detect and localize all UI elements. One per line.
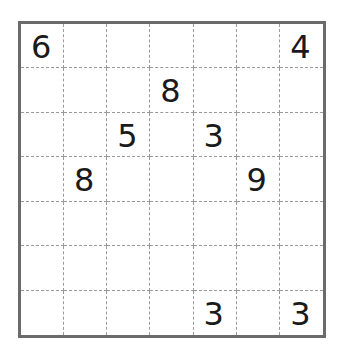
cell-value: 3 [290, 298, 310, 330]
grid-cell-r2-c1[interactable] [64, 113, 107, 157]
grid-cell-r6-c6[interactable]: 3 [280, 291, 323, 335]
grid-cell-r1-c6[interactable] [280, 68, 323, 112]
grid-cell-r3-c2[interactable] [107, 157, 150, 201]
grid-cell-r1-c5[interactable] [237, 68, 280, 112]
grid-cell-r5-c6[interactable] [280, 246, 323, 290]
grid-cell-r3-c1[interactable]: 8 [64, 157, 107, 201]
cell-value: 5 [117, 120, 137, 152]
grid-cell-r0-c3[interactable] [150, 24, 193, 68]
grid-cell-r3-c3[interactable] [150, 157, 193, 201]
grid-cell-r2-c0[interactable] [21, 113, 64, 157]
grid-cell-r6-c3[interactable] [150, 291, 193, 335]
grid-cell-r5-c3[interactable] [150, 246, 193, 290]
grid-cell-r2-c2[interactable]: 5 [107, 113, 150, 157]
grid-cell-r6-c5[interactable] [237, 291, 280, 335]
grid-cell-r0-c4[interactable] [194, 24, 237, 68]
cell-value: 6 [31, 31, 51, 63]
grid-cell-r2-c6[interactable] [280, 113, 323, 157]
grid-cell-r5-c4[interactable] [194, 246, 237, 290]
grid-cell-r3-c0[interactable] [21, 157, 64, 201]
grid-cell-r2-c4[interactable]: 3 [194, 113, 237, 157]
grid-cell-r6-c4[interactable]: 3 [194, 291, 237, 335]
cell-value: 9 [247, 164, 267, 196]
grid-cell-r0-c2[interactable] [107, 24, 150, 68]
grid-cell-r5-c1[interactable] [64, 246, 107, 290]
grid-cell-r5-c0[interactable] [21, 246, 64, 290]
grid-cell-r4-c6[interactable] [280, 202, 323, 246]
cell-value: 4 [290, 31, 310, 63]
cell-value: 3 [203, 298, 223, 330]
grid-cell-r4-c5[interactable] [237, 202, 280, 246]
grid-cell-r1-c2[interactable] [107, 68, 150, 112]
grid-cell-r5-c2[interactable] [107, 246, 150, 290]
grid-cell-r6-c2[interactable] [107, 291, 150, 335]
grid-cell-r1-c4[interactable] [194, 68, 237, 112]
grid-cell-r5-c5[interactable] [237, 246, 280, 290]
grid-cell-r4-c2[interactable] [107, 202, 150, 246]
grid-cell-r4-c0[interactable] [21, 202, 64, 246]
grid-cell-r6-c0[interactable] [21, 291, 64, 335]
grid-cell-r2-c3[interactable] [150, 113, 193, 157]
grid-cell-r0-c0[interactable]: 6 [21, 24, 64, 68]
grid-cell-r0-c5[interactable] [237, 24, 280, 68]
grid-cell-r1-c1[interactable] [64, 68, 107, 112]
cell-value: 8 [160, 75, 180, 107]
cell-value: 8 [74, 164, 94, 196]
grid-cell-r3-c6[interactable] [280, 157, 323, 201]
puzzle-board: 648538933 [18, 21, 326, 338]
grid-cell-r3-c5[interactable]: 9 [237, 157, 280, 201]
grid-cell-r0-c6[interactable]: 4 [280, 24, 323, 68]
cell-value: 3 [203, 120, 223, 152]
grid-cell-r4-c1[interactable] [64, 202, 107, 246]
grid-cell-r0-c1[interactable] [64, 24, 107, 68]
grid-cell-r1-c3[interactable]: 8 [150, 68, 193, 112]
grid-cell-r3-c4[interactable] [194, 157, 237, 201]
grid-cell-r1-c0[interactable] [21, 68, 64, 112]
grid-cell-r4-c4[interactable] [194, 202, 237, 246]
grid-cell-r6-c1[interactable] [64, 291, 107, 335]
grid-cell-r2-c5[interactable] [237, 113, 280, 157]
grid-cell-r4-c3[interactable] [150, 202, 193, 246]
